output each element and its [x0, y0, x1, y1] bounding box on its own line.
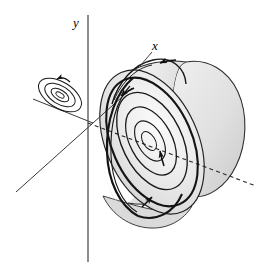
y-axis-label: y: [71, 15, 79, 30]
figure-canvas: y x: [0, 0, 258, 273]
x-axis-label: x: [151, 38, 158, 53]
phase-space-figure: y x: [0, 0, 258, 273]
